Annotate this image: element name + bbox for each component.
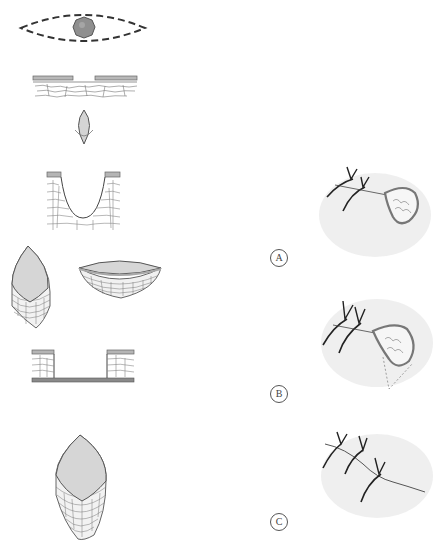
bowl-specimen-figure [77,258,163,302]
lesion-ellipse-figure [18,8,148,48]
u-shaped-wound-icon [47,170,123,232]
skin-cross-section-figure [33,74,138,100]
label-c: C [270,513,288,531]
rectangular-wound-icon [32,350,134,382]
skin-layers-icon [33,74,138,100]
label-a: A [270,249,288,267]
tall-specimen-icon [8,244,54,330]
ellipse-specimen-icon [73,108,95,148]
large-specimen-figure [54,433,110,543]
suture-loop-tissue-icon [315,165,433,265]
suture-panel-b [315,295,433,395]
suture-panel-c [315,430,433,530]
label-b: B [270,385,288,403]
suture-loop-undermining-icon [315,295,433,395]
dashed-ellipse-lesion-icon [18,8,148,48]
completed-closure-icon [315,430,433,530]
full-thickness-excision-figure [32,350,134,382]
tall-specimen-figure [8,244,54,330]
u-excision-figure [47,170,123,232]
small-specimen-figure [73,108,95,148]
bowl-specimen-icon [77,258,163,302]
large-specimen-icon [54,433,110,543]
suture-panel-a [315,165,433,265]
